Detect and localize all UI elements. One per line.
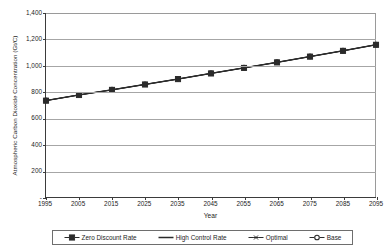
y-tick-mark xyxy=(43,172,46,173)
gridline xyxy=(46,172,376,173)
y-tick-label: 1,200 xyxy=(16,36,42,42)
legend-label: Zero Discount Rate xyxy=(82,234,137,241)
data-point-marker xyxy=(69,235,74,240)
y-tick-label: 400 xyxy=(16,142,42,148)
plain-line-key xyxy=(158,233,174,242)
gridline xyxy=(46,119,376,120)
y-tick-label: 1,400 xyxy=(16,10,42,16)
y-tick-label: 800 xyxy=(16,89,42,95)
legend-item[interactable]: Base xyxy=(308,233,343,242)
gridline xyxy=(46,92,376,93)
x-axis-tick-labels: 1995200520152025203520452055206520752085… xyxy=(45,200,376,212)
plot-area xyxy=(45,13,376,198)
chart-figure: Atmospheric Carbon Dioxide Concentration… xyxy=(0,0,384,250)
gridline xyxy=(46,66,376,67)
series-layer xyxy=(46,13,376,197)
y-tick-label: 200 xyxy=(16,168,42,174)
legend-label: High Control Rate xyxy=(176,234,227,241)
legend-item[interactable]: Optimal xyxy=(247,233,289,242)
legend-label: Optimal xyxy=(266,234,288,241)
gridline xyxy=(46,39,376,40)
y-tick-mark xyxy=(43,13,46,14)
legend-item[interactable]: Zero Discount Rate xyxy=(63,233,138,242)
y-tick-mark xyxy=(43,145,46,146)
y-tick-mark xyxy=(43,92,46,93)
circle-marker-line-key xyxy=(309,233,325,242)
x-axis-label: Year xyxy=(45,212,376,219)
y-tick-mark xyxy=(43,66,46,67)
y-axis-tick-labels: 1,4001,2001,000800600400200- xyxy=(16,0,42,250)
y-tick-label: 600 xyxy=(16,115,42,121)
chart-legend: Zero Discount RateHigh Control RateOptim… xyxy=(52,230,353,245)
y-tick-mark xyxy=(43,39,46,40)
legend-item[interactable]: High Control Rate xyxy=(157,233,228,242)
square-marker-line-key xyxy=(64,233,80,242)
y-tick-mark xyxy=(43,119,46,120)
legend-label: Base xyxy=(327,234,342,241)
asterisk-marker-line-key xyxy=(248,233,264,242)
x-tick-label: 2095 xyxy=(356,200,384,207)
y-tick-label: 1,000 xyxy=(16,63,42,69)
gridline xyxy=(46,145,376,146)
